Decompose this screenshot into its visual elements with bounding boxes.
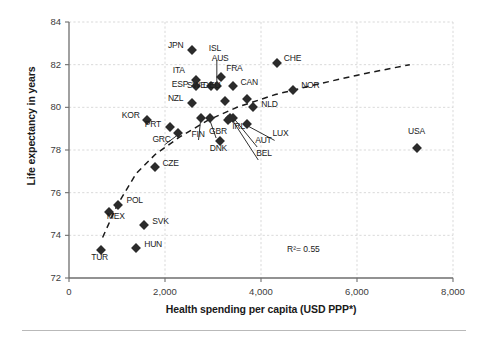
data-point-label: AUS [212, 53, 229, 63]
footer-divider [22, 330, 466, 331]
data-point-label: BEL [256, 148, 271, 158]
data-point-label: FIN [192, 129, 205, 139]
data-point-label: JPN [168, 40, 183, 50]
data-point-label: CAN [241, 77, 258, 87]
data-point-label: ESP [172, 79, 188, 89]
data-point-label: NLD [261, 99, 277, 109]
data-point-label: IRL [232, 121, 245, 131]
data-point-label: NOR [301, 80, 319, 90]
x-tick-label: 2,000 [135, 286, 195, 297]
data-point-label: ITA [173, 65, 185, 75]
data-point-label: CZE [162, 158, 178, 168]
x-tick-label: 4,000 [231, 286, 291, 297]
data-point-label: LUX [273, 128, 289, 138]
scatter-chart: Life expectancy in years Health spending… [0, 0, 488, 337]
data-point-label: USA [408, 126, 425, 136]
y-tick-label: 80 [35, 101, 61, 112]
data-point-label: PRT [145, 119, 161, 129]
x-tick-label: 6,000 [327, 286, 387, 297]
data-point-label: TUR [91, 252, 108, 262]
y-tick-label: 76 [35, 187, 61, 198]
data-point-label: MEX [107, 211, 125, 221]
data-point-label: FRA [226, 63, 242, 73]
y-tick-label: 82 [35, 59, 61, 70]
data-point-label: SVK [152, 216, 168, 226]
x-axis-title: Health spending per capita (USD PPP*) [69, 303, 453, 315]
y-tick-label: 84 [35, 16, 61, 27]
r-squared-annotation: R²= 0.55 [287, 244, 320, 254]
data-point-label: POL [126, 195, 142, 205]
data-point-label: DNK [210, 143, 227, 153]
x-tick-label: 8,000 [423, 286, 483, 297]
data-point-label: NZL [168, 93, 183, 103]
data-point-label: ISL [209, 43, 221, 53]
data-point-label: GRC [152, 134, 170, 144]
data-point-label: AUT [255, 135, 271, 145]
y-tick-label: 74 [35, 229, 61, 240]
data-point-label: KOR [122, 110, 140, 120]
data-point-label: DEU [203, 80, 220, 90]
data-point-label: CHE [284, 53, 301, 63]
data-point-label: HUN [144, 239, 162, 249]
data-point-label: GBR [209, 126, 227, 136]
x-tick-label: 0 [39, 286, 99, 297]
y-tick-label: 78 [35, 144, 61, 155]
y-tick-label: 72 [35, 272, 61, 283]
